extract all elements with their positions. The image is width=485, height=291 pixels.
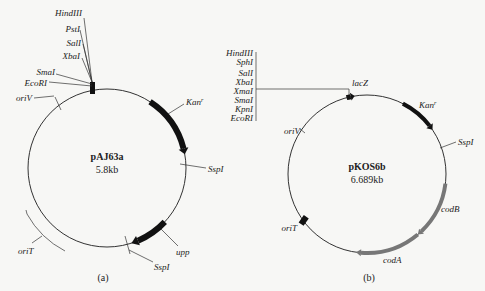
pKOS6b-sspi-leader [440,142,456,148]
pAJ63a-sspi-2-label: SspI [154,262,171,272]
pKOS6b-lacZ-label: lacZ [352,78,369,88]
pAJ63a-site-xbai: XbaI [62,51,81,61]
pKOS6b-oriT-label: oriT [281,223,298,233]
pAJ63a-upp-arrow [138,222,165,241]
pKOS6b-site-ecori: EcoRI [230,113,254,123]
pAJ63a-site-ecori: EcoRI [24,78,48,88]
pKOS6b-codA-arrow [361,235,418,253]
pKOS6b-name: pKOS6b [348,161,386,172]
pKOS6b-site-sphi: SphI [237,57,255,67]
pAJ63a-site-psti: PstI [65,24,82,34]
panel-a: HindIII PstI SalI XbaI SmaI EcoRI oriV K… [16,8,225,284]
pAJ63a-kan-leader [168,104,184,114]
pAJ63a-kan-label: Kanr [185,97,204,107]
plasmid-maps: HindIII PstI SalI XbaI SmaI EcoRI oriV K… [0,0,485,291]
pAJ63a-sspi-2-leader [129,250,153,262]
panel-a-caption: (a) [97,272,108,284]
pKOS6b-lacZ-arrow [347,97,351,98]
pAJ63a-oriV-leader [34,96,54,98]
pKOS6b-codA-arrowhead [356,249,361,256]
pAJ63a-site-hindiii: HindIII [54,8,83,18]
panel-b-caption: (b) [363,272,375,284]
panel-b: HindIII SphI SalI XbaI XmaI SmaI KpnI Ec… [225,48,475,284]
pAJ63a-oriT-arc-tip [26,210,27,214]
pKOS6b-codA-label: codA [383,255,402,265]
pAJ63a-upp-leader [161,229,178,246]
pKOS6b-mcs-sites: HindIII SphI SalI XbaI XmaI SmaI KpnI Ec… [225,48,254,123]
pAJ63a-size: 5.8kb [96,164,119,175]
pKOS6b-sspi-label: SspI [458,137,475,147]
pAJ63a-sspi-1-leader [180,164,206,168]
pKOS6b-size: 6.689kb [351,174,384,185]
pKOS6b-kan-label: Kanr [418,100,437,110]
pKOS6b-codB-label: codB [441,204,460,214]
pKOS6b-oriV-label: oriV [284,126,302,136]
pAJ63a-name: pAJ63a [91,151,124,162]
pAJ63a-upp-label: upp [176,247,190,257]
pAJ63a-site-smai: SmaI [37,67,56,77]
pAJ63a-site-sali: SalI [67,38,83,48]
pAJ63a-sspi-1-label: SspI [208,164,225,174]
pAJ63a-oriT-leader [32,236,42,243]
pAJ63a-oriV-label: oriV [16,93,34,103]
pAJ63a-kan-arrow [150,102,184,149]
pAJ63a-oriT-label: oriT [18,246,35,256]
